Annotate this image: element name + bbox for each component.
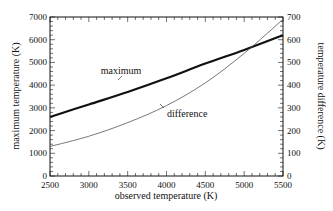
maximum-series-line [50, 35, 283, 117]
y2-axis-label: temperature difference (K) [315, 43, 327, 150]
y-tick-label: 3000 [29, 103, 48, 113]
difference-series-line [50, 19, 283, 146]
chart: maximum difference observed temperature … [0, 0, 333, 211]
x-axis-label: observed temperature (K) [115, 190, 218, 202]
y-tick-label: 7000 [29, 12, 48, 22]
x-tick-label: 5000 [235, 180, 254, 190]
y-tick-label: 5000 [29, 57, 48, 67]
y-tick-label: 2000 [29, 126, 48, 136]
y2-tick-label: 0 [287, 171, 292, 181]
x-tick-label: 5500 [274, 180, 293, 190]
y2-tick-label: 200 [287, 126, 301, 136]
annotation-difference: difference [167, 108, 208, 119]
axis-ticks [50, 17, 283, 176]
x-tick-label: 3500 [119, 180, 138, 190]
plot-frame [50, 17, 283, 176]
x-tick-label: 2500 [41, 180, 60, 190]
y-tick-label: 6000 [29, 35, 48, 45]
x-tick-label: 4500 [196, 180, 215, 190]
y2-tick-label: 500 [287, 57, 301, 67]
annotation-maximum: maximum [101, 65, 142, 76]
x-tick-label: 4000 [158, 180, 177, 190]
y2-tick-label: 700 [287, 12, 301, 22]
y2-tick-label: 600 [287, 35, 301, 45]
y-tick-label: 0 [43, 171, 48, 181]
y2-tick-label: 300 [287, 103, 301, 113]
y-tick-label: 1000 [29, 148, 48, 158]
y2-tick-label: 400 [287, 80, 301, 90]
x-tick-label: 3000 [80, 180, 99, 190]
maximum-annotation-leader [118, 76, 122, 80]
y2-tick-label: 100 [287, 148, 301, 158]
y-axis-label: maximum temperature (K) [10, 42, 22, 149]
tick-labels: 2500300035004000450050005500010002000300… [29, 12, 301, 190]
y-tick-label: 4000 [29, 80, 48, 90]
